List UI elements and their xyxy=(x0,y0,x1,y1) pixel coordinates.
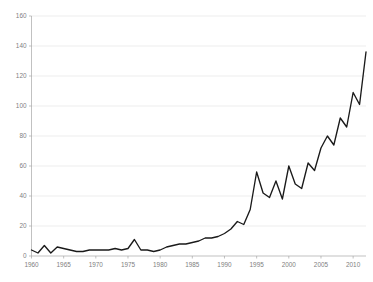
x-tick-label-1975: 1975 xyxy=(121,261,136,268)
x-tick-label-1960: 1960 xyxy=(24,261,39,268)
x-tick-label-1985: 1985 xyxy=(185,261,200,268)
x-tick-label-1990: 1990 xyxy=(217,261,232,268)
y-tick-label-140: 140 xyxy=(16,42,27,49)
y-tick-label-80: 80 xyxy=(19,132,27,139)
chart-canvas: 020406080100120140160 196019651970197519… xyxy=(0,0,373,282)
x-tick-label-2010: 2010 xyxy=(346,261,361,268)
line-chart: 020406080100120140160 196019651970197519… xyxy=(0,0,373,282)
x-tick-label-1970: 1970 xyxy=(89,261,104,268)
y-tick-label-120: 120 xyxy=(16,72,27,79)
y-tick-label-60: 60 xyxy=(19,162,27,169)
y-tick-label-160: 160 xyxy=(16,12,27,19)
data-series xyxy=(32,52,367,253)
x-tick-label-1965: 1965 xyxy=(57,261,72,268)
y-axis-tick-labels: 020406080100120140160 xyxy=(16,12,32,259)
y-tick-label-100: 100 xyxy=(16,102,27,109)
y-tick-label-0: 0 xyxy=(23,252,27,259)
x-axis-tick-labels: 1960196519701975198019851990199520002005… xyxy=(24,256,360,268)
y-tick-label-20: 20 xyxy=(19,222,27,229)
x-tick-label-2000: 2000 xyxy=(282,261,297,268)
x-tick-label-1995: 1995 xyxy=(250,261,265,268)
gridlines xyxy=(32,16,367,226)
series-line-1 xyxy=(32,52,367,253)
y-tick-label-40: 40 xyxy=(19,192,27,199)
x-tick-label-2005: 2005 xyxy=(314,261,329,268)
x-tick-label-1980: 1980 xyxy=(153,261,168,268)
